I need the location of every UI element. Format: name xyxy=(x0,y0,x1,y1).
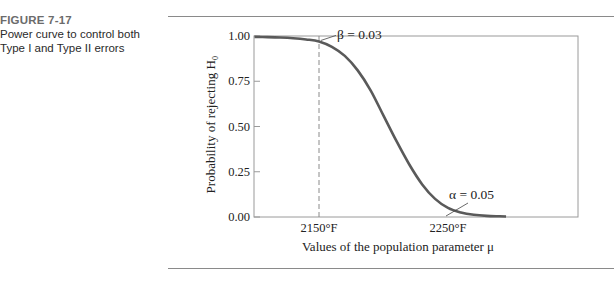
beta-annotation: β = 0.03 xyxy=(337,27,382,42)
x-axis-label: Values of the population parameter μ xyxy=(302,239,494,254)
y-tick-label: 1.00 xyxy=(228,29,250,43)
plot-border xyxy=(254,36,578,217)
alpha-annotation: α = 0.05 xyxy=(449,187,494,202)
x-tick-label: 2250°F xyxy=(430,221,467,235)
x-axis: 2150°F2250°F xyxy=(301,221,467,235)
annotations: β = 0.03α = 0.05 xyxy=(321,27,494,216)
y-tick-label: 0.00 xyxy=(228,210,250,224)
y-axis: 0.000.250.500.751.00 xyxy=(228,29,260,224)
x-tick-label: 2150°F xyxy=(301,221,338,235)
y-tick-label: 0.50 xyxy=(228,120,250,134)
y-tick-label: 0.75 xyxy=(228,74,250,88)
power-curve-chart: 0.000.250.500.751.00 2150°F2250°F β = 0.… xyxy=(0,0,614,293)
y-axis-label: Probability of rejecting H₀ xyxy=(203,56,218,194)
y-tick-label: 0.25 xyxy=(228,165,250,179)
plot-frame xyxy=(254,36,578,217)
